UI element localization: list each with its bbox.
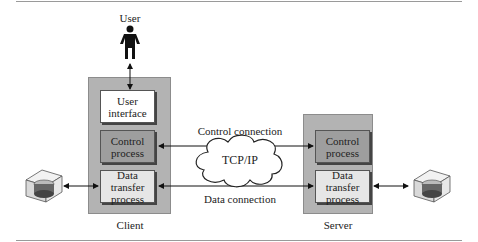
- tcp-ip-cloud: TCP/IP: [190, 132, 290, 190]
- client-disk-drive-icon: [24, 168, 64, 204]
- connection-lines: [0, 0, 478, 242]
- tcp-ip-label: TCP/IP: [190, 154, 290, 166]
- data-connection-label: Data connection: [195, 193, 285, 205]
- control-connection-label: Control connection: [195, 125, 285, 137]
- server-disk-drive-icon: [412, 168, 452, 204]
